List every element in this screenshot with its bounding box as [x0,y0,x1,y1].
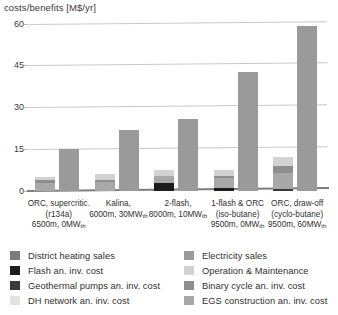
bar-group-4 [208,18,268,191]
x-axis-label-5: ORC, draw-off(cyclo-butane)9500m, 60MWth [252,199,338,232]
legend-item-label: DH network an. inv. cost [28,296,129,306]
y-tick-mark-30 [24,107,28,108]
legend-item: Flash an. inv. cost [10,263,160,278]
bar-group-2 [89,18,149,191]
bar-segment [154,176,174,183]
bar-group-5 [267,18,327,191]
x-axis-labels: ORC, supercritic.(r134a)6500m, 0MWthKali… [0,199,338,243]
bar-segment [273,157,293,166]
legend-swatch-operation-maintenance [184,266,194,275]
legend-item-label: EGS construction an. inv. cost [202,296,327,306]
legend-column-left: District heating salesFlash an. inv. cos… [10,248,160,308]
legend-column-right: Electricity salesOperation & Maintenance… [184,248,327,308]
bar-segment [214,188,234,191]
x-axis-label-line: ORC, draw-off [252,199,338,210]
chart-title: costs/benefits [M$/yr] [4,2,96,13]
bar-segment [59,149,79,191]
bar-segment [119,130,139,191]
legend-item: Electricity sales [184,248,327,263]
bar-group-3 [148,18,208,191]
benefit-bar-1 [59,149,79,191]
bar-segment [273,189,293,192]
chart-legend: District heating salesFlash an. inv. cos… [8,248,330,310]
legend-item-label: Geothermal pumps an. inv. cost [28,281,160,291]
y-tick-mark-60 [24,24,28,25]
bar-segment [154,183,174,191]
legend-item-label: Binary cycle an. inv. cost [202,281,305,291]
legend-item: Operation & Maintenance [184,263,327,278]
legend-swatch-district-heating-sales [10,251,20,260]
legend-item: Geothermal pumps an. inv. cost [10,278,160,293]
legend-item: District heating sales [10,248,160,263]
bar-segment [273,173,293,189]
legend-swatch-dh-network-inv-cost [10,296,20,305]
cost-bar-5 [273,157,293,191]
cost-bar-4 [214,170,234,191]
y-tick-label-60: 60 [14,19,24,29]
bar-segment [35,183,55,191]
bar-segment [214,178,234,188]
bar-group-1 [29,18,89,191]
benefit-bar-3 [178,119,198,191]
benefit-bar-2 [119,130,139,191]
legend-item: EGS construction an. inv. cost [184,293,327,308]
legend-swatch-geothermal-pumps-inv-cost [10,281,20,290]
plot-area: 015304560 [29,18,327,191]
chart-page: costs/benefits [M$/yr] 015304560 ORC, su… [0,0,338,315]
bar-segment [297,26,317,191]
legend-swatch-electricity-sales [184,251,194,260]
legend-item-label: Electricity sales [202,251,267,261]
x-axis-label-line: (cyclo-butane) [252,210,338,221]
legend-item-label: Operation & Maintenance [202,266,309,276]
x-axis-label-line: 6500m, 0MWth [14,220,104,232]
cost-bar-3 [154,170,174,191]
benefit-bar-5 [297,26,317,191]
bar-segment [178,119,198,191]
legend-swatch-flash-inv-cost [10,266,20,275]
y-tick-label-45: 45 [14,60,24,70]
legend-item: Binary cycle an. inv. cost [184,278,327,293]
cost-bar-1 [35,177,55,191]
cost-bar-2 [95,174,115,191]
y-tick-label-30: 30 [14,102,24,112]
legend-item-label: District heating sales [28,251,115,261]
x-axis-label-line: 9500m, 60MWth [252,220,338,232]
y-tick-mark-15 [24,149,28,150]
legend-item: DH network an. inv. cost [10,293,160,308]
subscript-th: th [81,222,86,229]
bar-segment [238,72,258,191]
legend-swatch-binary-cycle-inv-cost [184,281,194,290]
legend-item-label: Flash an. inv. cost [28,266,103,276]
bar-segment [95,182,115,191]
y-tick-label-15: 15 [14,144,24,154]
benefit-bar-4 [238,72,258,191]
subscript-th: th [321,222,326,229]
legend-swatch-egs-construction-inv-cost [184,296,194,305]
y-tick-mark-45 [24,65,28,66]
